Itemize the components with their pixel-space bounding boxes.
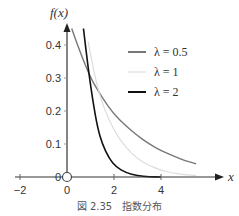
x-axis-label: x (227, 169, 234, 184)
x-axis-arrow-icon (215, 174, 224, 181)
legend-label: λ = 0.5 (154, 45, 188, 59)
exponential-distribution-chart: 00.10.20.30.4 −2024 f(x) x λ = 0.5λ = 1λ… (0, 0, 239, 216)
series-line (83, 29, 161, 178)
y-tick-label: 0.4 (46, 39, 61, 51)
y-tick-label: 0.2 (46, 105, 61, 117)
origin-marker (63, 173, 72, 182)
x-tick-label: −2 (14, 184, 27, 196)
y-tick-label: 0 (55, 171, 61, 183)
series-line (88, 42, 196, 176)
y-axis-arrow-icon (64, 23, 71, 32)
legend: λ = 0.5λ = 1λ = 2 (128, 45, 188, 99)
legend-label: λ = 2 (154, 85, 179, 99)
figure-caption: 図 2.35 指数分布 (0, 198, 239, 213)
legend-label: λ = 1 (154, 65, 179, 79)
y-tick-label: 0.1 (46, 138, 61, 150)
x-tick-label: 2 (111, 184, 117, 196)
y-ticks: 00.10.20.30.4 (46, 39, 67, 183)
x-tick-label: 0 (64, 184, 70, 196)
x-tick-label: 4 (158, 184, 164, 196)
y-axis-label: f(x) (50, 5, 68, 20)
y-tick-label: 0.3 (46, 72, 61, 84)
